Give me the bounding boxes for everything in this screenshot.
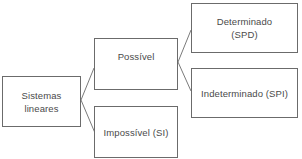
node-label: Indeterminado (SPI) <box>201 87 288 100</box>
edge-root-possivel <box>81 68 94 100</box>
node-label-line2: lineares <box>22 102 62 115</box>
edge-possivel-determinado <box>178 30 191 62</box>
node-label-line1: Sistemas <box>22 89 62 102</box>
node-label: Possível <box>118 50 155 63</box>
node-label: Impossível (SI) <box>104 126 169 139</box>
node-impossivel: Impossível (SI) <box>94 106 178 158</box>
node-label-line2: (SPD) <box>217 28 273 41</box>
node-possivel: Possível <box>94 38 178 90</box>
edge-possivel-indeterminado <box>178 62 191 91</box>
edge-root-impossivel <box>81 100 95 133</box>
node-label-line1: Determinado <box>217 15 273 28</box>
node-indeterminado: Indeterminado (SPI) <box>191 68 298 118</box>
node-determinado: Determinado (SPD) <box>191 3 298 53</box>
node-sistemas-lineares: Sistemas lineares <box>2 76 81 127</box>
